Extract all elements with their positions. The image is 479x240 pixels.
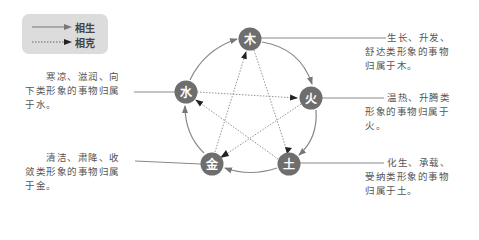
leader-lines [134, 38, 386, 164]
description-water-line-2: 下类形象的事物归属 [25, 84, 137, 98]
node-metal: 金 [201, 153, 224, 176]
description-wood-line-3: 归属于木。 [365, 59, 475, 73]
node-earth-label: 土 [283, 157, 295, 172]
description-wood: 生长、升发、 舒达类形象的事物 归属于木。 [365, 31, 475, 73]
description-earth-line-1: 化生、承载、 [365, 156, 475, 170]
description-earth-line-2: 受纳类形象的事物 [365, 170, 475, 184]
description-wood-line-1: 生长、升发、 [365, 31, 475, 45]
description-water-line-1: 寒凉、滋润、向 [25, 70, 137, 84]
restraining-star [196, 50, 301, 159]
node-wood-label: 木 [243, 32, 257, 47]
description-earth-line-3: 归属于土。 [365, 184, 475, 198]
description-earth: 化生、承载、 受纳类形象的事物 归属于土。 [365, 156, 475, 198]
description-water-line-3: 于水。 [25, 98, 137, 112]
description-fire: 温热、升腾类 形象的事物归属于 火。 [365, 91, 475, 133]
description-wood-line-2: 舒达类形象的事物 [365, 45, 475, 59]
arrow-head-fire-metal [220, 150, 229, 158]
description-metal: 清洁、肃降、收 敛类形象的事物归属 于金。 [25, 151, 137, 193]
node-metal-label: 金 [205, 157, 219, 172]
description-metal-line-1: 清洁、肃降、收 [25, 151, 137, 165]
node-fire: 火 [300, 87, 323, 110]
description-water: 寒凉、滋润、向 下类形象的事物归属 于水。 [25, 70, 137, 112]
node-water: 水 [175, 81, 198, 104]
node-wood: 木 [239, 28, 262, 51]
description-metal-line-3: 于金。 [25, 179, 137, 193]
description-fire-line-1: 温热、升腾类 [365, 91, 475, 105]
node-earth: 土 [278, 153, 301, 176]
node-fire-label: 火 [305, 92, 318, 106]
description-metal-line-2: 敛类形象的事物归属 [25, 165, 137, 179]
node-water-label: 水 [180, 85, 193, 100]
description-fire-line-2: 形象的事物归属于 [365, 105, 475, 119]
description-fire-line-3: 火。 [365, 119, 475, 133]
